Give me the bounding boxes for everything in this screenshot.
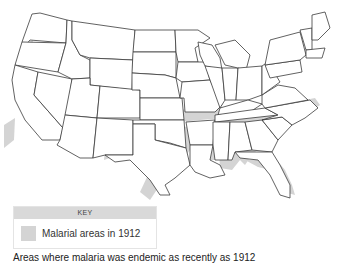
legend-item: Malarial areas in 1912	[14, 219, 156, 248]
state-ohio	[236, 66, 262, 100]
state-north-dakota	[133, 30, 176, 52]
state-washington	[22, 13, 67, 46]
state-wyoming	[90, 58, 133, 90]
state-borders	[12, 12, 330, 198]
state-kansas	[140, 98, 184, 120]
state-colorado	[97, 86, 140, 118]
state-maine	[312, 12, 330, 40]
state-new-mexico	[93, 118, 133, 158]
state-new-york	[265, 32, 306, 65]
map-caption: Areas where malaria was endemic as recen…	[13, 252, 255, 263]
us-map	[0, 0, 343, 205]
map-legend: KEY Malarial areas in 1912	[13, 206, 157, 249]
state-massachusetts	[306, 48, 325, 58]
legend-title: KEY	[14, 207, 156, 219]
state-montana	[72, 21, 135, 60]
state-arkansas	[186, 120, 215, 145]
state-mississippi	[213, 122, 230, 160]
state-indiana	[222, 68, 238, 100]
legend-label: Malarial areas in 1912	[42, 228, 140, 239]
legend-swatch-malarial	[21, 226, 36, 241]
